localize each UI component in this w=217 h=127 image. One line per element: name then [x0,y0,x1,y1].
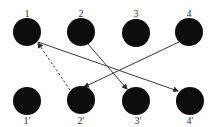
node-label: 4 [187,8,192,19]
node-1: 1 [13,8,41,46]
node-2-prime: 2' [67,86,95,126]
node-4-prime: 4' [176,87,204,126]
mapping-diagram: 1 2 3 4 1' 2' 3' 4' [0,0,217,127]
node-circle [67,86,95,114]
node-label: 3 [134,8,139,19]
edge-4-to-2p [84,42,179,87]
node-3-prime: 3' [122,87,150,126]
edge-2p-to-1-dashed [38,43,70,90]
node-label: 4' [187,115,194,126]
node-circle [13,18,41,46]
node-label: 3' [135,115,142,126]
node-3: 3 [122,8,150,47]
node-label: 2' [78,115,85,126]
node-circle [175,18,203,46]
node-2: 2 [67,8,95,46]
node-circle [67,18,95,46]
node-label: 1 [25,8,30,19]
node-label: 1' [24,115,31,126]
node-1-prime: 1' [13,87,41,126]
node-circle [122,19,150,47]
node-circle [122,87,150,115]
node-label: 2 [79,8,84,19]
node-4: 4 [175,8,203,46]
node-circle [176,87,204,115]
node-circle [13,87,41,115]
